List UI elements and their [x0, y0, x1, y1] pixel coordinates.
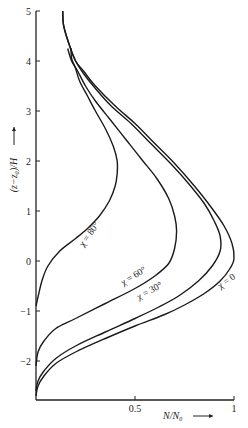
- x-tick-label: 0.5: [129, 403, 142, 414]
- y-tick-label: 0: [26, 256, 31, 267]
- axes: 543210−1−2 0.51: [20, 6, 236, 415]
- x-arrowhead-icon: [209, 414, 213, 418]
- y-ticks: 543210−1−2: [20, 6, 40, 367]
- y-tick-label: 4: [26, 56, 31, 67]
- y-axis-title: (z−z₀)/H: [8, 127, 20, 192]
- y-tick-label: 2: [26, 156, 31, 167]
- y-tick-label: −1: [20, 306, 31, 317]
- curve-label: χ = 0: [215, 271, 237, 291]
- y-tick-label: −2: [20, 356, 31, 367]
- chart-canvas: 543210−1−2 0.51 χ = 0χ = 30°χ = 60°χ = 8…: [0, 0, 248, 428]
- curve-label: χ = 60°: [118, 264, 148, 288]
- y-tick-label: 3: [26, 106, 31, 117]
- curve-1: [36, 11, 221, 391]
- y-arrowhead-icon: [12, 127, 16, 131]
- curve-3: [36, 48, 118, 306]
- x-axis-label: N/N₀: [162, 410, 183, 421]
- curve-labels: χ = 0χ = 30°χ = 60°χ = 80°: [76, 220, 237, 302]
- y-tick-label: 5: [26, 6, 31, 17]
- x-ticks: 0.51: [129, 396, 237, 414]
- x-tick-label: 1: [232, 403, 237, 414]
- x-axis-title: N/N₀: [162, 410, 213, 421]
- curve-label: χ = 30°: [134, 280, 164, 302]
- y-axis-label: (z−z₀)/H: [8, 157, 20, 192]
- y-tick-label: 1: [26, 206, 31, 217]
- curves: [36, 11, 234, 396]
